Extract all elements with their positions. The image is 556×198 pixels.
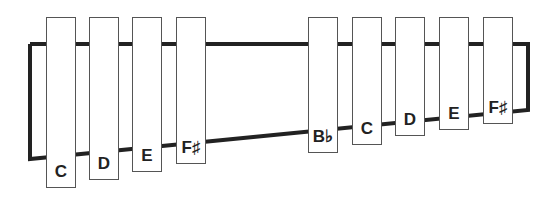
xylophone-frame bbox=[0, 0, 556, 198]
xylophone-bar: F♯ bbox=[176, 17, 206, 164]
note-label: E bbox=[440, 104, 468, 124]
note-label: F♯ bbox=[484, 98, 512, 118]
xylophone-bar: C bbox=[46, 17, 76, 188]
note-label: D bbox=[90, 154, 118, 174]
note-label: D bbox=[396, 110, 424, 130]
xylophone-bar: D bbox=[395, 17, 425, 136]
note-label: C bbox=[353, 119, 381, 139]
note-label: B♭ bbox=[309, 126, 337, 147]
xylophone-bar: F♯ bbox=[483, 17, 513, 124]
xylophone-bar: D bbox=[89, 17, 119, 180]
note-label: C bbox=[47, 162, 75, 182]
xylophone-bar: E bbox=[439, 17, 469, 130]
note-label: E bbox=[133, 146, 161, 166]
note-label: F♯ bbox=[177, 138, 205, 158]
xylophone-bar: E bbox=[132, 17, 162, 172]
xylophone-bar: B♭ bbox=[308, 17, 338, 153]
xylophone-diagram: CDEF♯B♭CDEF♯ bbox=[0, 0, 556, 198]
xylophone-bar: C bbox=[352, 17, 382, 145]
